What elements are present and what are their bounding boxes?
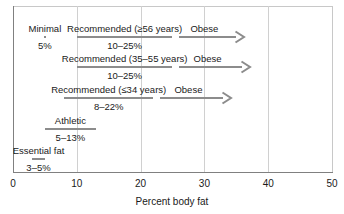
category-label: Obese [174,84,202,95]
x-tick-label-40: 40 [263,178,274,189]
plot-border-right [332,6,333,173]
arrow-shaft [179,66,242,68]
x-tick-label-10: 10 [71,178,82,189]
body-fat-chart: Minimal5%Recommended (≥56 years)10–25%Ob… [0,0,344,214]
point-marker [44,36,46,38]
gridline-40 [268,6,269,172]
range-value-label: 3–5% [26,162,50,173]
category-label: Recommended (35–55 years) [62,53,188,64]
arrow-head-icon [241,61,253,75]
range-value-label: 5% [38,40,52,51]
range-bar [77,66,173,68]
category-label: Obese [190,23,218,34]
range-bar [45,128,96,130]
range-value-label: 10–25% [107,70,142,81]
x-tick-label-30: 30 [199,178,210,189]
axis-spine-bottom [13,172,333,173]
x-tick-label-0: 0 [10,178,16,189]
arrow-head-icon [235,31,247,45]
range-value-label: 10–25% [107,40,142,51]
plot-border-top [13,6,333,7]
x-axis-title: Percent body fat [0,196,344,207]
arrow-head-icon [222,92,234,106]
category-label: Recommended (≤34 years) [51,84,166,95]
range-bar [77,36,173,38]
range-bar [32,158,45,160]
category-label: Athletic [55,115,86,126]
range-value-label: 8–22% [94,101,124,112]
range-value-label: 5–13% [56,132,86,143]
x-tick-label-50: 50 [326,178,337,189]
category-label: Recommended (≥56 years) [67,23,182,34]
arrow-shaft [179,36,236,38]
arrow-shaft [160,97,223,99]
plot-area: Minimal5%Recommended (≥56 years)10–25%Ob… [13,6,333,173]
category-label: Minimal [29,23,62,34]
category-label: Obese [194,53,222,64]
range-bar [64,97,153,99]
category-label: Essential fat [13,145,65,156]
x-tick-label-20: 20 [135,178,146,189]
